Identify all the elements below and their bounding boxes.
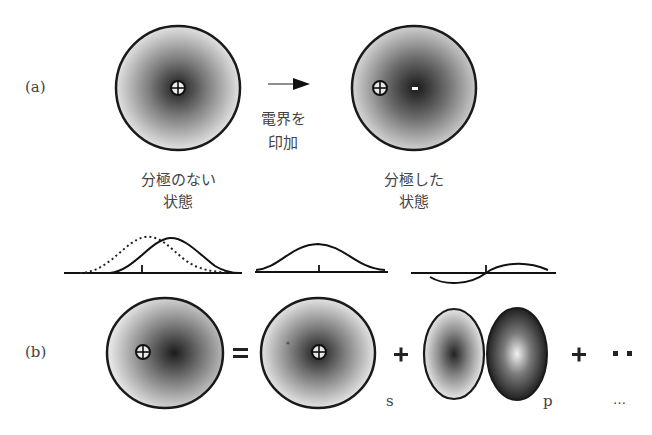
more-terms-dots-icon — [613, 351, 632, 356]
plus-icon — [394, 348, 408, 362]
nucleus-plus-icon — [171, 81, 185, 95]
polarized-orbital — [107, 298, 223, 408]
equals-icon — [233, 348, 248, 358]
nucleus-plus-icon — [136, 345, 150, 359]
panel-a-label: (a) — [25, 78, 46, 96]
distribution-plot-s — [255, 244, 388, 272]
arrow-caption-line2: 印加 — [258, 131, 308, 152]
polarized-caption-line2: 状態 — [354, 190, 474, 211]
s-orbital — [261, 298, 375, 408]
unpolarized-caption-line2: 状態 — [118, 190, 238, 211]
plus-icon — [572, 348, 586, 362]
arrow-caption-line1: 電界を — [258, 107, 308, 128]
polarized-atom — [352, 26, 476, 150]
unpolarized-caption-line1: 分極のない — [118, 168, 238, 189]
p-orbital — [424, 308, 547, 400]
distribution-plot-p — [411, 264, 556, 283]
unpolarized-atom — [116, 26, 240, 150]
nucleus-plus-icon — [373, 81, 387, 95]
electron-minus-icon — [412, 87, 418, 90]
polarized-caption-line1: 分極した — [354, 168, 474, 189]
ellipsis-label: … — [613, 392, 626, 407]
field-arrow-icon — [268, 78, 310, 90]
distribution-plot-shift — [64, 237, 242, 273]
nucleus-plus-icon — [312, 345, 326, 359]
figure-canvas — [0, 0, 652, 435]
panel-b-label: (b) — [25, 343, 46, 361]
s-orbital-label: s — [386, 392, 394, 410]
p-orbital-label: p — [543, 392, 553, 410]
